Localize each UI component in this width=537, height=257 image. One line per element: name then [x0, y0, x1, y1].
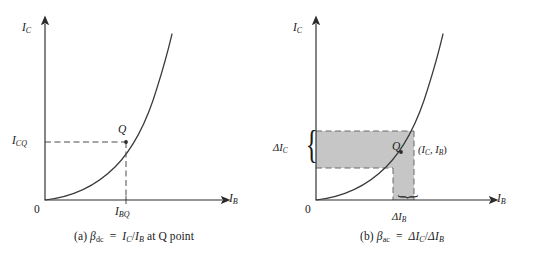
- panel-a-dc-beta: IC IB 0 Q ICQ IBQ (a) βdc=IC/IB at Q poi…: [0, 0, 268, 257]
- panel-b-delta-ib-label: ΔIB: [392, 212, 406, 223]
- panel-a-caption: (a) βdc=IC/IB at Q point: [0, 230, 268, 244]
- panel-b-delta-ic-brace: {: [306, 125, 318, 165]
- panel-b-y-axis-label: IC: [293, 22, 302, 35]
- panel-b-q-label: Q: [392, 141, 400, 153]
- panel-b-x-axis-label: IB: [497, 193, 506, 206]
- panel-a-origin-label: 0: [34, 204, 40, 216]
- panel-a-q-point-marker: [124, 140, 128, 144]
- panel-b-delta-ic-label: ΔIC: [273, 143, 288, 154]
- panel-a-y-tick-label: ICQ: [12, 135, 27, 148]
- panel-b-ac-beta: IC IB 0 ΔIC { Q (IC, IB) { ΔIB (b): [268, 0, 536, 257]
- panel-b-point-annotation: (IC, IB): [418, 145, 447, 156]
- panel-b-curve: [316, 34, 443, 200]
- panel-a-curve: [45, 34, 172, 200]
- figure-root: IC IB 0 Q ICQ IBQ (a) βdc=IC/IB at Q poi…: [0, 0, 537, 257]
- panel-b-caption: (b) βac=ΔIC/ΔIB: [268, 230, 536, 244]
- panel-a-plot: [0, 0, 268, 257]
- panel-a-x-axis-label: IB: [229, 193, 238, 206]
- panel-a-x-tick-label: IBQ: [115, 206, 130, 219]
- panel-a-q-label: Q: [118, 124, 126, 136]
- panel-b-delta-ib-brace: {: [394, 194, 418, 200]
- panel-a-y-axis-label: IC: [22, 22, 31, 35]
- panel-b-origin-label: 0: [305, 204, 311, 216]
